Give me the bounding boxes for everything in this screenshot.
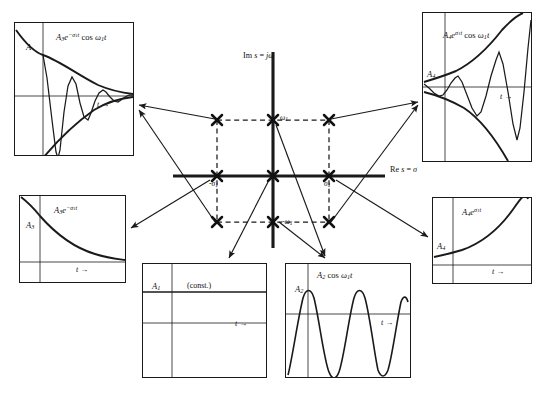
arrow-to-top-left-a (139, 105, 215, 119)
top-left-amplitude-label: A (26, 43, 31, 52)
pole-label-omega-positive: ω1 (280, 114, 288, 123)
arrow-to-bottom-left (229, 182, 268, 258)
top-left-lower-envelope (43, 97, 133, 158)
mid-left-equation: A3e−σ1t (54, 205, 77, 215)
pole-label-sigma-positive: σ1 (324, 180, 331, 189)
pole-label-omega-negative: -ω1 (282, 218, 293, 227)
mid-right-equation: A4eσ1t (462, 207, 481, 217)
bottom-left-amplitude-label: A1 (152, 282, 160, 291)
top-left-plot-content (15, 23, 133, 158)
bottom-right-equation: A2 cos ω1t (317, 271, 352, 280)
top-right-equation: A4eσ1t cos ω1t (443, 30, 489, 40)
arrow-to-bottom-right-b (279, 222, 325, 258)
bottom-right-cosine-waveform (288, 291, 408, 379)
arrow-to-top-right-a (331, 102, 418, 119)
mid-right-plot-content (433, 196, 531, 283)
pointer-arrows (131, 102, 428, 258)
top-right-amplitude-label: A4 (427, 70, 435, 79)
mid-left-time-axis-label: t → (76, 266, 88, 274)
top-left-equation: A3e−σ1t cos ω1t (56, 32, 106, 42)
mid-left-amplitude-label: A3 (26, 221, 34, 230)
mid-right-exponential-curve (434, 196, 528, 257)
top-right-lower-envelope (424, 92, 508, 161)
arrow-to-top-left-b (139, 110, 215, 222)
top-left-time-axis-label: t → (97, 101, 109, 109)
figure-canvas: Im s = jω Re s = σ ω1 -ω1 -σ1 σ1 A3e−σ1t… (0, 0, 543, 395)
bottom-left-time-axis-label: t → (235, 320, 247, 328)
imaginary-axis-label: Im s = jω (243, 52, 274, 60)
real-axis-label: Re s = σ (390, 166, 417, 174)
arrow-to-mid-left (131, 180, 210, 228)
pole-label-sigma-negative: -σ1 (209, 180, 218, 189)
mid-right-amplitude-label: A4 (437, 242, 445, 251)
top-right-time-axis-label: t → (500, 93, 512, 101)
mid-right-time-axis-label: t → (492, 268, 504, 276)
bottom-left-const-label: (const.) (187, 282, 211, 290)
bottom-right-time-axis-label: t → (381, 319, 393, 327)
arrow-to-bottom-right-a (276, 125, 325, 256)
bottom-right-amplitude-label: A2 (295, 285, 303, 294)
arrow-to-mid-right (336, 180, 428, 237)
top-right-upper-envelope (424, 13, 523, 82)
